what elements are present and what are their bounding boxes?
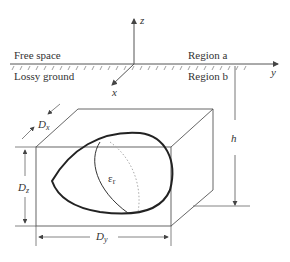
permittivity-label: εr <box>108 172 116 186</box>
region-a-label: Region a <box>188 49 228 61</box>
z-axis-label: z <box>139 14 145 26</box>
bounding-box <box>36 109 213 226</box>
dy-label: Dy <box>95 230 108 244</box>
dx-arrow-lower <box>22 127 34 139</box>
lossy-ground-label: Lossy ground <box>14 70 75 82</box>
dx-label: Dx <box>37 118 50 132</box>
x-axis-label: x <box>111 86 117 98</box>
y-axis-label: y <box>270 66 276 78</box>
diagram-canvas: z y x Free space Lossy ground Region a R… <box>0 0 290 262</box>
x-axis <box>112 64 134 85</box>
h-label: h <box>231 132 237 144</box>
region-b-label: Region b <box>188 70 229 82</box>
free-space-label: Free space <box>14 49 61 61</box>
dz-label: Dz <box>17 181 30 195</box>
dx-arrow-upper <box>48 104 60 114</box>
